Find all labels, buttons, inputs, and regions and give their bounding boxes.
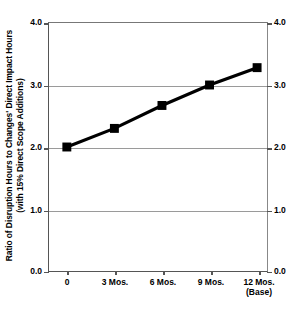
- x-label-1-text: 3 Mos.: [102, 277, 128, 287]
- y-label-left-4: 4.0: [30, 18, 42, 27]
- x-tick-0: [67, 271, 69, 275]
- y-label-right-0: 0.0: [274, 267, 286, 276]
- y-label-left-2: 2.0: [30, 143, 42, 152]
- data-point-4: [253, 63, 262, 72]
- data-point-3: [205, 81, 214, 90]
- y-label-left-3: 3.0: [30, 81, 42, 90]
- x-tick-4: [259, 271, 261, 275]
- x-label-3: 9 Mos.: [198, 277, 224, 287]
- x-tick-2: [163, 271, 165, 275]
- y-tick-right-3: [267, 86, 272, 88]
- y-label-right-2: 2.0: [274, 143, 286, 152]
- clipped-caption: [48, 305, 268, 311]
- y-tick-right-4: [267, 23, 272, 25]
- x-label-4-sub: (Base): [243, 287, 274, 297]
- y-axis-title: Ratio of Disruption Hours to Changes' Di…: [0, 0, 30, 290]
- x-label-4: 12 Mos. (Base): [243, 277, 274, 297]
- chart-figure: Ratio of Disruption Hours to Changes' Di…: [0, 0, 303, 311]
- plot-area: 4.0 3.0 2.0 1.0 0.0 4.0 3.0 2.0 1.0 0.0 …: [48, 22, 268, 272]
- x-tick-3: [211, 271, 213, 275]
- data-point-0: [62, 143, 71, 152]
- y-label-left-0: 0.0: [30, 267, 42, 276]
- x-tick-1: [115, 271, 117, 275]
- y-label-right-4: 4.0: [274, 18, 286, 27]
- x-label-0-text: 0: [65, 277, 70, 287]
- y-tick-left-0: [44, 272, 49, 274]
- y-axis-title-line-1: Ratio of Disruption Hours to Changes' Di…: [5, 29, 15, 261]
- data-series: [49, 23, 267, 271]
- y-label-left-1: 1.0: [30, 206, 42, 215]
- x-label-0: 0: [65, 277, 70, 287]
- y-label-right-3: 3.0: [274, 81, 286, 90]
- y-axis-title-line-2: (with 15% Direct Scope Additions): [15, 29, 26, 261]
- x-label-2-text: 6 Mos.: [150, 277, 176, 287]
- y-tick-right-2: [267, 148, 272, 150]
- x-label-1: 3 Mos.: [102, 277, 128, 287]
- x-label-4-text: 12 Mos.: [243, 277, 274, 287]
- y-tick-right-0: [267, 272, 272, 274]
- y-label-right-1: 1.0: [274, 206, 286, 215]
- x-label-2: 6 Mos.: [150, 277, 176, 287]
- y-tick-right-1: [267, 211, 272, 213]
- data-point-1: [110, 124, 119, 133]
- x-label-3-text: 9 Mos.: [198, 277, 224, 287]
- data-point-2: [158, 101, 167, 110]
